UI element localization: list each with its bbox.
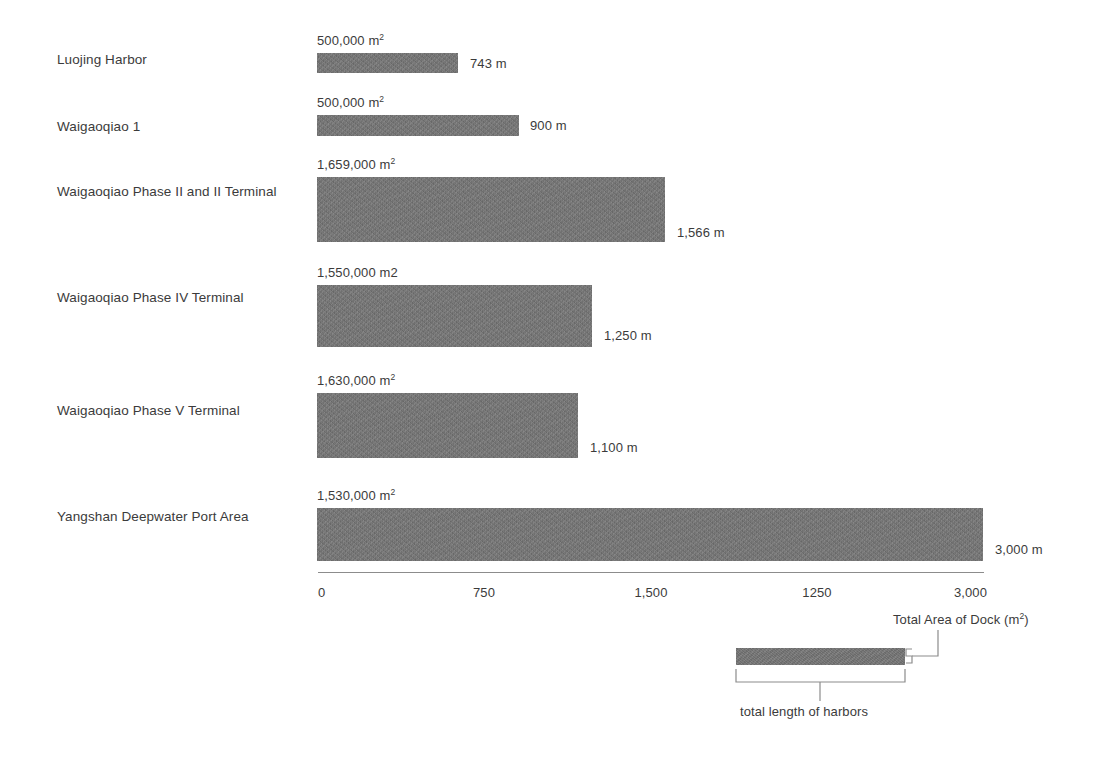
bar-0[interactable] [317,53,458,73]
area-value-sup-0: 2 [379,32,384,42]
legend-length-bracket [736,669,905,682]
area-value-sup-4: 2 [390,372,395,382]
area-value-unit-3: m2 [379,265,397,280]
chart-legend: Total Area of Dock (m2) total length of … [700,605,1102,735]
area-value-sup-2: 2 [390,156,395,166]
area-value-unit-4: m [379,373,390,388]
area-value-label-4: 1,630,000 m2 [317,373,395,388]
bar-5[interactable] [317,508,983,561]
length-value-label-2: 1,566 m [677,225,725,240]
bar-3[interactable] [317,285,592,347]
x-tick-label-0: 0 [318,585,325,600]
x-tick-label-3: 1250 [802,585,831,600]
category-label-5: Yangshan Deepwater Port Area [57,509,249,525]
bar-2[interactable] [317,177,665,242]
length-value-label-4: 1,100 m [590,440,638,455]
category-label-4: Waigaoqiao Phase V Terminal [57,403,240,419]
legend-area-label: Total Area of Dock (m2) [893,612,1029,627]
area-value-label-2: 1,659,000 m2 [317,157,395,172]
legend-area-label-unit: m [1008,612,1019,627]
legend-sample-bar [736,648,905,665]
area-value-label-0: 500,000 m2 [317,33,384,48]
legend-area-label-close: ) [1024,612,1028,627]
x-tick-label-4: 3,000 [954,585,987,600]
category-label-0: Luojing Harbor [57,52,147,68]
x-tick-label-2: 1,500 [634,585,667,600]
length-value-label-0: 743 m [470,56,507,71]
length-value-label-1: 900 m [530,118,567,133]
bar-1[interactable] [317,115,519,136]
legend-area-bracket [906,649,912,663]
bar-chart: Luojing Harbor Waigaoqiao 1 Waigaoqiao P… [0,0,1102,757]
area-value-unit-0: m [368,33,379,48]
legend-area-label-text: Total Area of Dock ( [893,612,1008,627]
category-label-2: Waigaoqiao Phase II and II Terminal [57,184,277,200]
legend-area-leader [912,630,938,656]
area-value-sup-5: 2 [390,487,395,497]
x-tick-label-1: 750 [473,585,495,600]
x-axis-line [318,572,984,573]
area-value-number-4: 1,630,000 [317,373,376,388]
area-value-unit-5: m [379,488,390,503]
area-value-unit-1: m [368,95,379,110]
category-label-1: Waigaoqiao 1 [57,119,140,135]
area-value-number-0: 500,000 [317,33,365,48]
category-label-3: Waigaoqiao Phase IV Terminal [57,290,244,306]
area-value-label-5: 1,530,000 m2 [317,488,395,503]
area-value-unit-2: m [379,157,390,172]
area-value-label-1: 500,000 m2 [317,95,384,110]
bar-4[interactable] [317,393,578,458]
length-value-label-5: 3,000 m [995,542,1043,557]
legend-length-label: total length of harbors [740,704,868,720]
area-value-number-3: 1,550,000 [317,265,376,280]
area-value-sup-1: 2 [379,94,384,104]
length-value-label-3: 1,250 m [604,328,652,343]
area-value-number-5: 1,530,000 [317,488,376,503]
area-value-label-3: 1,550,000 m2 [317,265,398,280]
area-value-number-1: 500,000 [317,95,365,110]
area-value-number-2: 1,659,000 [317,157,376,172]
